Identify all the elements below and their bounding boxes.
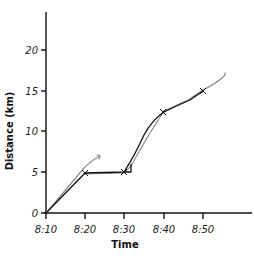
distance-time-chart: 0 5 10 15 20 8:10 8:20 8:30 8:40 8:50 Ti… xyxy=(0,0,254,256)
main-line-path xyxy=(46,91,203,213)
x-tick-label-840: 8:40 xyxy=(153,224,175,235)
x-tick-label-850: 8:50 xyxy=(192,224,214,235)
y-tick-label-0: 0 xyxy=(32,208,38,219)
x-axis-title: Time xyxy=(111,239,139,250)
axes xyxy=(41,12,252,219)
x-tick-label-810: 8:10 xyxy=(35,224,57,235)
sketch-line-b xyxy=(84,73,225,174)
y-tick-label-10: 10 xyxy=(25,126,38,137)
main-line xyxy=(46,91,203,213)
x-tick-label-820: 8:20 xyxy=(74,224,96,235)
x-tick-label-830: 8:30 xyxy=(113,224,135,235)
y-tick-label-5: 5 xyxy=(32,167,38,178)
y-axis-title: Distance (km) xyxy=(4,92,15,171)
y-tick-label-15: 15 xyxy=(25,86,38,97)
y-tick-label-20: 20 xyxy=(25,45,38,56)
